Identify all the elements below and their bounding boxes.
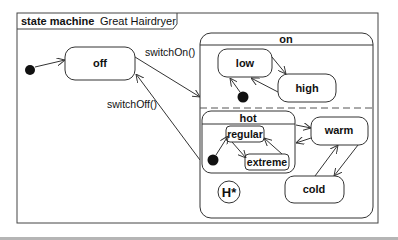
state-on-label: on [279, 33, 293, 45]
state-high[interactable]: high [278, 74, 336, 102]
state-off-label: off [93, 57, 107, 69]
state-low[interactable]: low [218, 49, 272, 77]
state-hot-label: hot [239, 112, 256, 124]
state-machine-diagram: state machine Great Hairdryer off switch… [0, 0, 398, 240]
frame-keyword: state machine [21, 15, 94, 27]
state-warm[interactable]: warm [311, 117, 368, 145]
state-regular-label: regular [227, 128, 263, 140]
initial-pseudostate-on [238, 92, 249, 103]
state-regular[interactable]: regular [226, 126, 264, 142]
state-cold[interactable]: cold [285, 176, 344, 203]
state-off[interactable]: off [65, 47, 135, 80]
state-extreme[interactable]: extreme [245, 154, 289, 170]
transition-switch-on-label: switchOn() [145, 46, 195, 58]
state-cold-label: cold [303, 183, 326, 195]
transition-switch-off-label: switchOff() [107, 98, 157, 110]
history-label: H* [222, 185, 237, 200]
state-warm-label: warm [324, 124, 354, 136]
initial-pseudostate-top [25, 65, 35, 75]
state-low-label: low [236, 57, 255, 69]
state-extreme-label: extreme [247, 156, 287, 168]
state-high-label: high [295, 82, 318, 94]
initial-pseudostate-hot [208, 155, 219, 166]
deep-history-pseudostate: H* [218, 181, 240, 203]
frame-name: Great Hairdryer [100, 15, 176, 27]
